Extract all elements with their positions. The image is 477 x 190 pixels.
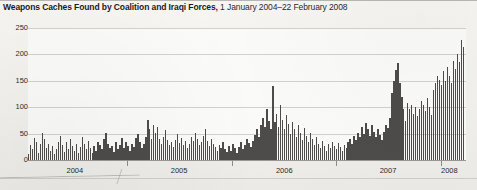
x-axis-label-2006: 2006: [276, 166, 293, 175]
y-axis-label-200: 200: [4, 50, 28, 58]
x-axis-label-2005: 2005: [171, 166, 188, 175]
bar-series: [28, 28, 466, 160]
chart-page: Weapons Caches Found by Coalition and Ir…: [0, 0, 477, 190]
bottom-rule: [0, 178, 477, 179]
plot-area: [28, 28, 466, 160]
x-axis-tick: [232, 161, 233, 166]
x-axis: 20042005200620072008: [28, 161, 466, 179]
bar: [463, 47, 464, 160]
top-rule: [0, 0, 477, 1]
y-axis-label-0: 0: [4, 156, 28, 164]
y-axis-label-100: 100: [4, 103, 28, 111]
chart-title-main: Weapons Caches Found by Coalition and Ir…: [3, 2, 218, 12]
x-axis-tick: [336, 161, 337, 166]
y-axis-label-150: 150: [4, 77, 28, 85]
x-axis-label-2008: 2008: [441, 166, 458, 175]
x-axis-tick: [127, 161, 128, 166]
chart-title-daterange: 1 January 2004–22 February 2008: [218, 2, 348, 12]
chart-title: Weapons Caches Found by Coalition and Ir…: [3, 2, 347, 12]
y-axis-label-250: 250: [4, 24, 28, 32]
x-axis-label-2004: 2004: [67, 166, 84, 175]
x-axis-label-2007: 2007: [380, 166, 397, 175]
y-axis-label-50: 50: [4, 130, 28, 138]
y-axis: 050100150200250: [0, 0, 28, 190]
